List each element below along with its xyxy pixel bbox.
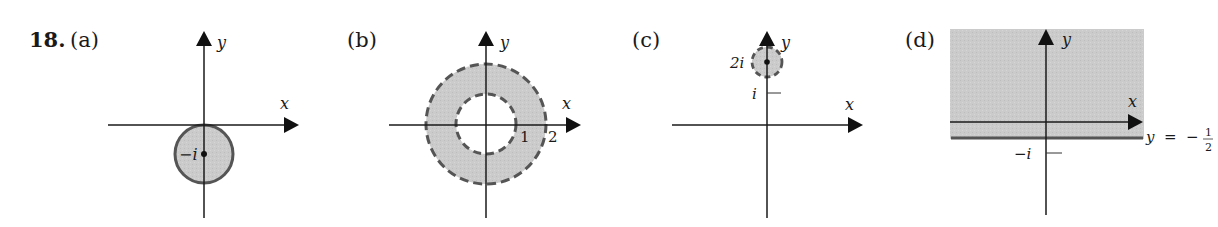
y-axis-arrow-icon [759,31,775,46]
tick-label-i: i [752,85,757,103]
line-equation-label: y = − [1145,128,1199,146]
y-axis-label: y [1061,30,1072,49]
center-label: 2i [729,54,745,72]
panel-d: (d) y x −i y = − 1 2 [905,28,1213,215]
panel-a-label: (a) [70,28,99,52]
panel-c-label: (c) [632,28,660,52]
fraction-denominator: 2 [1205,141,1212,154]
tick-label-2: 2 [548,128,558,146]
panel-d-label: (d) [905,28,935,52]
fraction-numerator: 1 [1205,126,1212,139]
center-point [201,151,207,157]
x-axis-arrow-icon [848,117,863,133]
x-axis-arrow-icon [566,117,581,133]
y-axis-arrow-icon [196,31,212,46]
center-point [764,59,770,65]
center-label: −i [179,145,198,164]
y-axis-arrow-icon [478,31,494,46]
tick-label-neg-i: −i [1014,145,1032,163]
y-axis-label: y [780,33,791,52]
problem-number: 18. [29,27,66,52]
tick-label-1: 1 [520,128,530,146]
panel-b-label: (b) [347,28,377,52]
x-axis-label: x [845,95,854,114]
x-axis-arrow-icon [284,117,299,133]
x-axis-label: x [280,94,289,113]
figure: 18. (a) y x −i (b) y x 1 2 (c) y x [0,0,1218,227]
x-axis-label: x [562,94,571,113]
panel-b: (b) y x 1 2 [347,28,581,218]
panel-a: (a) y x −i [70,28,299,218]
y-axis-label: y [499,33,510,52]
y-axis-label: y [216,33,227,52]
panel-c: (c) y x 2i i [632,28,863,218]
x-axis-label: x [1128,92,1137,111]
